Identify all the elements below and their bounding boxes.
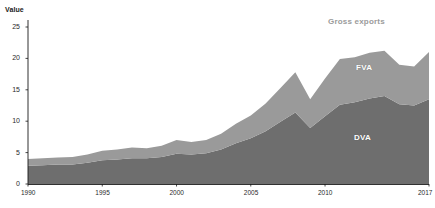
plot-area — [0, 0, 435, 208]
gross-exports-annotation: Gross exports — [328, 17, 385, 26]
area-chart: Value 0510152025 19901995200020052010201… — [0, 0, 435, 208]
x-tick-1995: 1995 — [95, 189, 109, 196]
series-label-fva: FVA — [356, 63, 372, 72]
x-tick-2017: 2017 — [418, 189, 432, 196]
x-tick-2000: 2000 — [170, 189, 184, 196]
x-tick-2010: 2010 — [318, 189, 332, 196]
x-tick-1990: 1990 — [21, 189, 35, 196]
series-label-dva: DVA — [354, 133, 371, 142]
x-tick-2005: 2005 — [244, 189, 258, 196]
